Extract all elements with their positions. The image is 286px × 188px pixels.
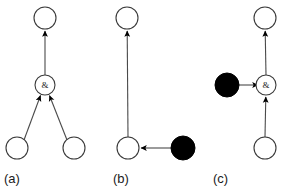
panel-b: (b) (113, 7, 195, 186)
edge-bottom-to-top-b (127, 31, 128, 137)
and-gate-label-a: & (41, 80, 48, 90)
panel-label-a: (a) (4, 171, 20, 186)
panel-a: & (a) (4, 7, 85, 186)
figure-canvas: & (a) (b) & (c) (0, 0, 286, 188)
panel-label-b: (b) (113, 171, 129, 186)
place-bottom-right-a[interactable] (63, 137, 85, 159)
place-bottom-c[interactable] (254, 137, 276, 159)
edge-bottom-to-gate-c (265, 97, 266, 137)
edge-gate-to-top-c (265, 31, 266, 75)
figure-container: & (a) (b) & (c) (0, 0, 286, 188)
and-gate-label-c: & (262, 80, 269, 90)
panel-label-c: (c) (213, 171, 228, 186)
place-bottom-left-a[interactable] (6, 137, 28, 159)
place-top-c[interactable] (254, 7, 276, 29)
panel-c: & (c) (213, 7, 276, 186)
place-marked-b[interactable] (171, 136, 195, 160)
place-top-b[interactable] (116, 7, 138, 29)
place-marked-c[interactable] (215, 73, 239, 97)
place-bottom-b[interactable] (117, 137, 139, 159)
edge-bottom-left-to-gate-a (24, 96, 41, 141)
place-top-a[interactable] (34, 7, 56, 29)
edge-bottom-right-to-gate-a (50, 96, 68, 141)
